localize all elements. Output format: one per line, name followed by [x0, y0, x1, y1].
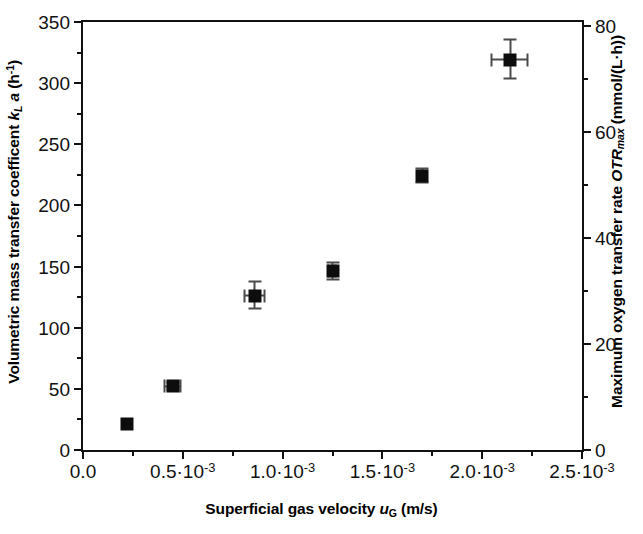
y-axis-right-tick-label: 40 — [595, 229, 616, 248]
y-axis-left-tick-label: 250 — [38, 135, 70, 154]
y-axis-left-tick-label: 0 — [59, 441, 70, 460]
error-bar-cap — [326, 279, 339, 281]
y-axis-left-minor-tick — [77, 174, 83, 176]
y-axis-right-minor-tick — [582, 290, 588, 292]
x-axis-tick — [481, 450, 483, 459]
y-axis-left-unit-close: ) — [5, 60, 22, 65]
y-axis-right-tick — [582, 343, 591, 345]
error-bar-cap — [179, 380, 181, 393]
plot-area: 0501001502002503003500204060800.00.5·10-… — [81, 20, 584, 452]
x-axis-tick-label-exponent: -3 — [204, 460, 215, 475]
x-axis-tick-label: 1.0·10-3 — [250, 462, 315, 481]
data-point[interactable] — [126, 424, 127, 425]
x-axis-tick-label: 0.0 — [70, 462, 96, 481]
data-point[interactable] — [422, 176, 423, 177]
y-axis-right-minor-tick — [582, 396, 588, 398]
y-axis-right-tick-label: 20 — [595, 335, 616, 354]
x-axis-tick-label-exponent: -3 — [603, 460, 614, 475]
error-bar-cap — [263, 289, 265, 302]
x-axis-tick-label: 1.5·10-3 — [350, 462, 415, 481]
y-axis-left-unit-exponent: -1 — [4, 65, 16, 74]
y-axis-left-tick-label: 350 — [38, 13, 70, 32]
x-axis-tick-label-exponent: -3 — [404, 460, 415, 475]
y-axis-left-minor-tick — [77, 418, 83, 420]
x-axis-minor-tick — [232, 450, 234, 456]
data-point-marker[interactable] — [248, 289, 261, 302]
x-axis-title: Superficial gas velocity uG (m/s) — [0, 500, 643, 519]
error-bar-cap — [248, 308, 261, 310]
y-axis-left-tick — [74, 143, 83, 145]
x-axis-unit: (m/s) — [397, 500, 438, 517]
error-bar-cap — [326, 261, 339, 263]
x-axis-tick-label-exponent: -3 — [304, 460, 315, 475]
error-bar-cap — [527, 53, 529, 66]
y-axis-left-tick — [74, 388, 83, 390]
data-point-marker[interactable] — [120, 418, 133, 431]
x-axis-tick-label: 2.0·10-3 — [450, 462, 515, 481]
y-axis-right-tick — [582, 25, 591, 27]
x-axis-tick — [82, 450, 84, 459]
x-axis-tick-label: 0.5·10-3 — [150, 462, 215, 481]
y-axis-left-title: Volumetric mass transfer coefficent kL a… — [4, 2, 24, 442]
y-axis-left-tick — [74, 204, 83, 206]
x-axis-minor-tick — [431, 450, 433, 456]
data-point-marker[interactable] — [326, 265, 339, 278]
x-axis-tick-label-exponent: -3 — [503, 460, 514, 475]
data-point-marker[interactable] — [166, 380, 179, 393]
y-axis-left-tick-label: 300 — [38, 74, 70, 93]
y-axis-right-tick — [582, 131, 591, 133]
y-axis-left-minor-tick — [77, 113, 83, 115]
data-point[interactable] — [332, 271, 333, 272]
error-bar-cap — [163, 380, 165, 393]
y-axis-left-tick-label: 150 — [38, 257, 70, 276]
y-axis-left-tick-label: 200 — [38, 196, 70, 215]
y-axis-right-tick — [582, 237, 591, 239]
error-bar-cap — [491, 53, 493, 66]
y-axis-right-tick-label: 0 — [595, 441, 606, 460]
y-axis-right-symbol-otr: OTR — [608, 149, 625, 181]
x-axis-minor-tick — [531, 450, 533, 456]
x-axis-symbol-u: u — [379, 500, 388, 517]
y-axis-left-minor-tick — [77, 296, 83, 298]
y-axis-right-minor-tick — [582, 78, 588, 80]
y-axis-right-unit: (mmol/(L·h)) — [608, 35, 625, 128]
x-axis-minor-tick — [332, 450, 334, 456]
y-axis-left-minor-tick — [77, 235, 83, 237]
x-axis-tick-label: 2.5·10-3 — [549, 462, 614, 481]
y-axis-left-minor-tick — [77, 357, 83, 359]
y-axis-right-symbol-subscript: max — [614, 128, 626, 149]
y-axis-right-title: Maximum oxygen transfer rate OTRmax (mmo… — [608, 0, 627, 444]
error-bar-cap — [243, 289, 245, 302]
y-axis-right-title-text: Maximum oxygen transfer rate — [608, 182, 625, 408]
y-axis-left-tick — [74, 21, 83, 23]
x-axis-title-text: Superficial gas velocity — [205, 500, 379, 517]
y-axis-left-title-text: Volumetric mass transfer coefficent — [5, 121, 22, 384]
x-axis-tick — [381, 450, 383, 459]
x-axis-tick — [282, 450, 284, 459]
error-bar-cap — [248, 281, 261, 283]
y-axis-left-symbol-a: a — [5, 93, 22, 106]
y-axis-left-tick — [74, 82, 83, 84]
y-axis-left-symbol-k-subscript: L — [12, 106, 24, 112]
y-axis-left-minor-tick — [77, 52, 83, 54]
data-point-marker[interactable] — [416, 170, 429, 183]
y-axis-right-tick — [582, 449, 591, 451]
y-axis-left-tick — [74, 266, 83, 268]
y-axis-right-tick-label: 80 — [595, 17, 616, 36]
y-axis-left-tick — [74, 327, 83, 329]
y-axis-left-symbol-k: k — [5, 112, 22, 121]
data-point-marker[interactable] — [504, 53, 517, 66]
y-axis-left-unit-open: (h — [5, 74, 22, 93]
x-axis-minor-tick — [132, 450, 134, 456]
y-axis-left-tick-label: 100 — [38, 318, 70, 337]
data-point[interactable] — [254, 295, 255, 296]
error-bar-cap — [504, 78, 517, 80]
data-point[interactable] — [172, 386, 173, 387]
y-axis-right-minor-tick — [582, 184, 588, 186]
error-bar-cap — [504, 39, 517, 41]
chart-figure: Volumetric mass transfer coefficent kL a… — [0, 0, 643, 534]
x-axis-tick — [581, 450, 583, 459]
x-axis-tick — [182, 450, 184, 459]
data-point[interactable] — [510, 59, 511, 60]
x-axis-symbol-subscript: G — [389, 507, 397, 519]
